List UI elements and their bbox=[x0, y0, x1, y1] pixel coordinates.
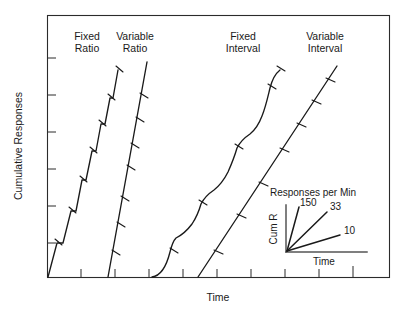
variable-ratio-label-line2: Ratio bbox=[123, 42, 148, 54]
variable-ratio-reinforcer-marks bbox=[112, 93, 148, 255]
variable-ratio-label-line1: Variable bbox=[116, 30, 154, 42]
plot-frame bbox=[48, 16, 390, 278]
y-axis-ticks bbox=[48, 58, 57, 243]
fixed-ratio-label-line2: Ratio bbox=[75, 42, 100, 54]
fixed-ratio-curve bbox=[48, 70, 118, 277]
inset-rate-label-10: 10 bbox=[344, 225, 356, 236]
variable-interval-label-line2: Interval bbox=[308, 42, 342, 54]
inset-rate-reference: Responses per Min Cum R Time 150 33 10 bbox=[268, 187, 367, 267]
schedule-label-variable-interval: Variable Interval bbox=[306, 30, 344, 54]
fixed-ratio-reinforcer-marks bbox=[55, 66, 123, 245]
y-axis-label: Cumulative Responses bbox=[12, 92, 24, 200]
schedule-label-variable-ratio: Variable Ratio bbox=[116, 30, 154, 54]
cumulative-record-figure: Cumulative Responses Time Fixed Ratio Va… bbox=[0, 0, 404, 309]
x-axis-label: Time bbox=[207, 291, 230, 303]
fixed-interval-curve bbox=[152, 70, 280, 277]
x-axis-ticks bbox=[81, 266, 353, 278]
schedule-label-fixed-ratio: Fixed Ratio bbox=[74, 30, 100, 54]
variable-interval-label-line1: Variable bbox=[306, 30, 344, 42]
series-fixed-ratio bbox=[48, 66, 123, 277]
fixed-interval-label-line1: Fixed bbox=[230, 30, 256, 42]
fixed-ratio-label-line1: Fixed bbox=[74, 30, 100, 42]
inset-y-axis-label: Cum R bbox=[268, 213, 279, 244]
inset-rate-label-33: 33 bbox=[330, 201, 342, 212]
fixed-interval-label-line2: Interval bbox=[226, 42, 260, 54]
schedule-label-fixed-interval: Fixed Interval bbox=[226, 30, 260, 54]
inset-x-axis-label: Time bbox=[313, 256, 335, 267]
inset-rate-label-150: 150 bbox=[300, 197, 317, 208]
